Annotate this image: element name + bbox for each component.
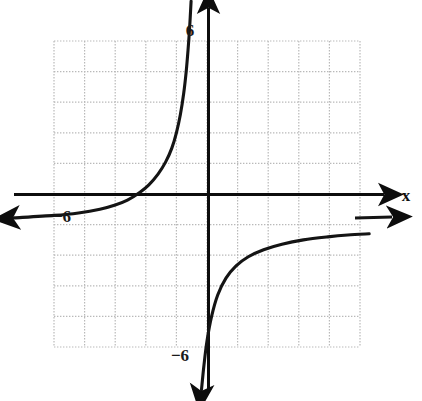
branch-end-arrows xyxy=(355,217,392,218)
y-tick-label-neg6: −6 xyxy=(171,346,189,365)
y-tick-label-6: 6 xyxy=(186,21,195,40)
x-tick-label-neg6: −6 xyxy=(53,207,71,226)
canvas-background xyxy=(0,0,422,401)
x-axis-name-label: x xyxy=(402,186,411,205)
coordinate-plane-svg: 6 −6 −6 x xyxy=(0,0,422,401)
graph-figure: 6 −6 −6 x xyxy=(0,0,422,401)
lower-branch-right-arrow xyxy=(355,217,392,218)
